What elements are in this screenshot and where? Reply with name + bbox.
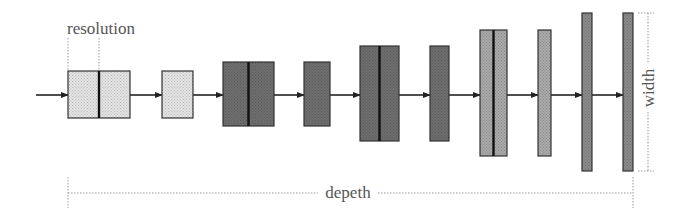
layer-block <box>223 62 274 126</box>
layer-block <box>582 13 592 171</box>
width-dimension: width <box>638 13 658 171</box>
layer-block <box>538 30 551 156</box>
layer-block <box>360 46 399 141</box>
width-label: width <box>639 68 658 107</box>
layer-block <box>623 13 633 171</box>
resolution-dimension: resolution <box>67 19 135 71</box>
depth-dimension: depeth <box>68 177 633 208</box>
layer-block <box>430 46 449 141</box>
depth-label: depeth <box>325 183 371 202</box>
layer-block <box>480 30 507 156</box>
layer-blocks <box>68 13 633 171</box>
layer-block <box>162 71 193 118</box>
resolution-label: resolution <box>67 19 135 38</box>
efficientnet-scaling-diagram: resolution width depeth <box>0 0 693 218</box>
layer-block <box>304 62 330 126</box>
layer-block <box>68 71 130 118</box>
